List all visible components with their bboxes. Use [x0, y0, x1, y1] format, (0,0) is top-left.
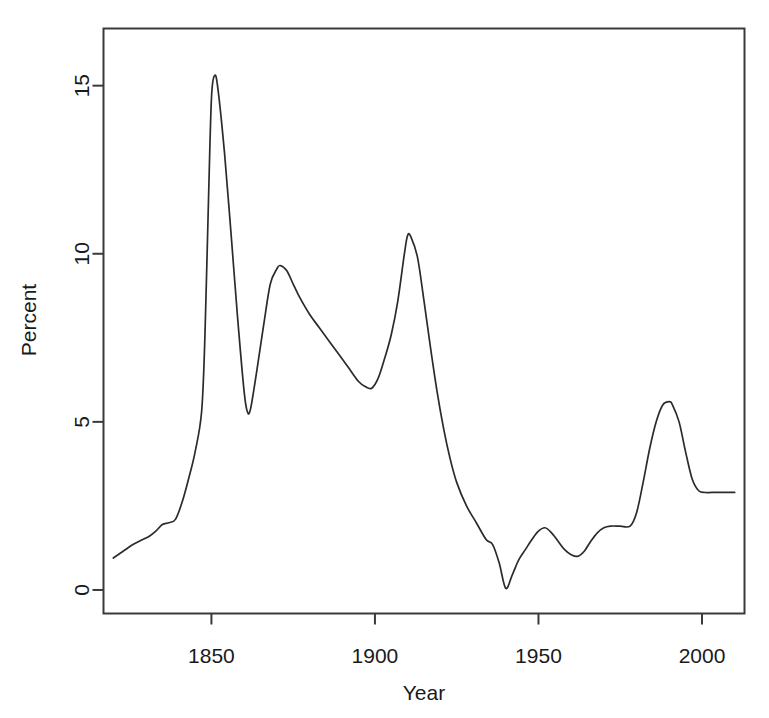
x-tick-label: 2000	[679, 644, 726, 667]
x-axis-ticks: 1850190019502000	[188, 614, 725, 667]
x-axis-title: Year	[403, 681, 445, 704]
y-tick-label: 0	[70, 584, 93, 596]
y-tick-label: 5	[70, 416, 93, 428]
x-tick-label: 1850	[188, 644, 235, 667]
chart-figure: 051015 1850190019502000 Percent Year	[0, 0, 769, 718]
x-tick-label: 1950	[515, 644, 562, 667]
y-tick-label: 10	[70, 242, 93, 265]
y-axis-ticks: 051015	[70, 74, 104, 596]
line-chart: 051015 1850190019502000 Percent Year	[0, 0, 769, 718]
x-tick-label: 1900	[352, 644, 399, 667]
plot-frame	[104, 29, 745, 614]
series-line-percent	[113, 75, 734, 588]
y-axis-title: Percent	[17, 284, 40, 357]
y-tick-label: 15	[70, 74, 93, 97]
